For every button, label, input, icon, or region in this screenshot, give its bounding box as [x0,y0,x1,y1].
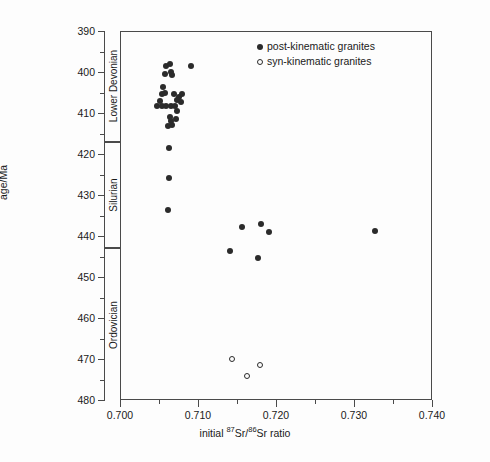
plot-area [121,32,431,399]
chart-figure: 390400410420430440450460470480 age/Ma Lo… [0,0,490,462]
stratigraphic-band-label: Lower Devonian [108,50,119,122]
y-axis-tick-label: 400 [61,67,95,77]
data-point [165,207,171,213]
x-axis-title: initial 87Sr/86Sr ratio [0,425,490,439]
x-axis-title-mid: Sr/ [235,427,248,439]
data-point [166,175,172,181]
data-point [188,63,194,69]
data-point [162,71,168,77]
y-axis-tick [98,154,105,155]
data-point [229,356,235,362]
stratigraphic-column: Lower DevonianSilurianOrdovician [105,31,121,400]
x-axis-tick-label: 0.700 [90,409,150,421]
stratigraphic-band: Ordovician [105,248,121,400]
data-point [167,61,173,67]
x-axis-tick [276,400,277,407]
open-circle-icon [257,59,263,65]
x-axis-tick-label: 0.740 [402,409,462,421]
legend-label: post-kinematic granites [267,39,375,54]
x-axis-tick [198,400,199,407]
stratigraphic-band-label: Ordovician [108,301,119,349]
data-point [255,255,261,261]
data-point [179,91,185,97]
x-axis-minor-tick [237,400,238,404]
x-axis-tick [120,400,121,407]
legend-entry: post-kinematic granites [257,39,375,54]
data-point [266,229,272,235]
y-axis-tick-label: 480 [61,395,95,405]
data-point [169,72,175,78]
y-axis-tick [98,195,105,196]
chart-legend: post-kinematic granitessyn-kinematic gra… [257,39,375,69]
y-axis-tick-label: 390 [61,26,95,36]
legend-label: syn-kinematic granites [267,54,371,69]
data-point [166,145,172,151]
stratigraphic-band: Lower Devonian [105,31,121,142]
data-point [174,108,180,114]
x-axis-tick-label: 0.730 [324,409,384,421]
y-axis-tick [98,31,105,32]
stratigraphic-band-label: Silurian [108,178,119,211]
data-point [160,84,166,90]
y-axis-tick [98,359,105,360]
x-axis-minor-tick [393,400,394,404]
stratigraphic-band: Silurian [105,142,121,249]
data-point [162,90,168,96]
x-axis-title-suffix: Sr ratio [257,427,291,439]
filled-circle-icon [257,44,263,50]
y-axis-tick-label: 470 [61,354,95,364]
x-axis-tick-label: 0.720 [246,409,306,421]
data-point [227,248,233,254]
y-axis-tick-label: 410 [61,108,95,118]
x-axis-minor-tick [159,400,160,404]
plot-frame [120,31,432,400]
y-axis-tick-label: 430 [61,190,95,200]
x-axis-tick [354,400,355,407]
y-axis-tick [98,113,105,114]
x-axis-title-sup-86: 86 [248,425,256,434]
data-point [372,228,378,234]
data-point [169,122,175,128]
data-point [173,116,179,122]
data-point [257,362,263,368]
y-axis-tick-label: 450 [61,272,95,282]
y-axis-tick [98,318,105,319]
y-axis-tick [98,236,105,237]
data-point [244,373,250,379]
data-point [258,221,264,227]
data-point [239,224,245,230]
x-axis-title-sup-87: 87 [226,425,234,434]
legend-entry: syn-kinematic granites [257,54,375,69]
y-axis-tick [98,72,105,73]
y-axis-tick-label: 440 [61,231,95,241]
y-axis-tick-label: 460 [61,313,95,323]
x-axis-tick-label: 0.710 [168,409,228,421]
x-axis-title-prefix: initial [200,427,227,439]
data-point [178,99,184,105]
y-axis-tick-label: 420 [61,149,95,159]
x-axis-tick [432,400,433,407]
y-axis-tick [98,400,105,401]
x-axis-minor-tick [315,400,316,404]
y-axis-tick [98,277,105,278]
y-axis-title: age/Ma [0,165,9,200]
